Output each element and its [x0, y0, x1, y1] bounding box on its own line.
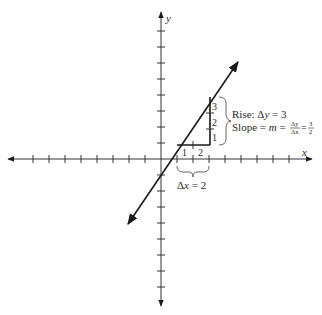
svg-text:3: 3: [309, 120, 312, 127]
rise-label-3: 3: [212, 101, 217, 112]
rise-label-2: 2: [212, 117, 217, 128]
run-label-1: 1: [182, 147, 187, 158]
svg-text:2: 2: [309, 128, 312, 135]
rise-run-triangle: [177, 97, 210, 145]
slope-equals: =: [301, 122, 307, 133]
rise-brace: [219, 97, 231, 145]
run-brace-label: Δx = 2: [177, 179, 206, 191]
rise-label-1: 1: [212, 132, 217, 143]
y-axis-label: y: [165, 12, 171, 24]
svg-text:Δx: Δx: [291, 128, 299, 135]
x-axis: x: [8, 146, 312, 163]
slope-fraction-value: 3 2: [308, 120, 314, 135]
x-axis-label: x: [301, 146, 307, 158]
run-label-2: 2: [198, 147, 203, 158]
slope-text: Slope = m =: [232, 121, 286, 133]
slope-line: [128, 62, 238, 224]
slope-diagram: x y: [0, 0, 322, 315]
run-brace: [177, 166, 209, 177]
slope-fraction-delta: Δy Δx: [290, 120, 300, 135]
rise-text: Rise: Δy = 3: [232, 108, 287, 120]
svg-text:Δy: Δy: [291, 120, 299, 127]
